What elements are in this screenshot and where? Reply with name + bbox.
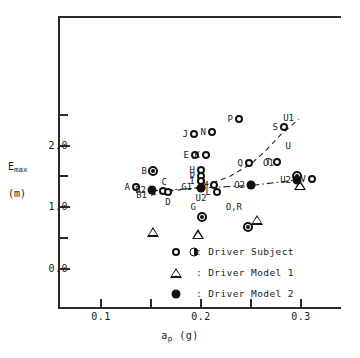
x-axis-unit: (g) xyxy=(179,330,199,341)
point-label: A xyxy=(125,182,130,192)
data-point: O,R xyxy=(0,20,360,30)
x-tick-label: 0.3 xyxy=(291,311,311,322)
data-point: B xyxy=(0,0,360,10)
point-label: O1 xyxy=(263,158,274,168)
x-axis-title-sub: p xyxy=(168,334,173,343)
point-label: D xyxy=(165,197,170,207)
point-label: J xyxy=(183,129,188,139)
y-tick-label: 1.0 xyxy=(48,201,68,212)
marker-open-circle xyxy=(172,248,180,256)
marker-open-circle xyxy=(245,159,253,167)
marker-open-circle xyxy=(273,158,281,166)
point-label: G1 xyxy=(181,182,192,192)
data-point: O1 xyxy=(0,60,360,70)
data-point: U xyxy=(0,30,360,40)
marker-triangle xyxy=(147,227,159,237)
data-point: U1 xyxy=(0,70,360,80)
point-label: E xyxy=(184,150,189,160)
y-axis-unit: (m) xyxy=(8,187,28,200)
point-label: U2 xyxy=(280,175,291,185)
legend: : Driver Subject: Driver Model 1: Driver… xyxy=(150,240,294,303)
marker-filled-circle xyxy=(293,175,302,184)
marker-triangle xyxy=(251,215,263,225)
y-axis-title-sub: max xyxy=(14,165,28,174)
y-tick xyxy=(60,175,68,177)
marker-filled-circle xyxy=(148,186,157,195)
marker-triangle xyxy=(170,268,182,278)
marker-half-circle xyxy=(190,247,199,256)
data-point: G1 xyxy=(0,50,360,60)
marker-bullseye xyxy=(197,212,207,222)
marker-open-circle xyxy=(280,123,288,131)
point-label: U2 xyxy=(196,193,207,203)
legend-row: : Driver Subject xyxy=(150,240,294,261)
marker-open-circle xyxy=(208,128,216,136)
data-point: B1 xyxy=(0,40,360,50)
point-label: Q xyxy=(238,158,243,168)
point-label: O,R xyxy=(226,202,242,212)
plot-top-border xyxy=(58,16,341,18)
y-tick xyxy=(60,114,68,116)
x-tick xyxy=(300,299,302,309)
point-label: K xyxy=(195,150,200,160)
marker-filled-circle xyxy=(172,289,181,298)
point-label: S xyxy=(273,122,278,132)
marker-open-circle xyxy=(308,175,316,183)
point-label: O2 xyxy=(234,180,245,190)
point-label: C xyxy=(162,177,167,187)
legend-symbols xyxy=(150,288,196,300)
marker-filled-circle xyxy=(197,183,206,192)
point-label: G xyxy=(191,202,196,212)
point-label: B xyxy=(142,166,147,176)
y-tick-label: 2.0 xyxy=(48,140,68,151)
legend-label: : Driver Model 2 xyxy=(196,283,294,304)
legend-symbols xyxy=(150,267,196,279)
legend-label: : Driver Model 1 xyxy=(196,262,294,283)
point-label: U1 xyxy=(283,113,294,123)
marker-triangle xyxy=(192,229,204,239)
point-label: B2 xyxy=(135,185,146,195)
y-tick xyxy=(60,237,68,239)
marker-open-circle xyxy=(164,188,172,196)
data-points-layer: ACDEKHPIMLJNPQTSVBGO,RUB1G1O1U1B2U2O2U2 xyxy=(0,0,360,80)
marker-bullseye xyxy=(148,166,158,176)
marker-open-circle xyxy=(202,151,210,159)
scatter-plot-figure: 0.01.02.0 0.10.20.3 Emax (m) ap (g) ACDE… xyxy=(0,0,360,358)
driver-model-2-curve xyxy=(151,180,297,191)
legend-symbols xyxy=(150,246,196,258)
legend-label: : Driver Subject xyxy=(196,241,294,262)
data-point: G xyxy=(0,10,360,20)
marker-open-circle xyxy=(213,188,221,196)
x-tick-label: 0.2 xyxy=(191,311,211,322)
y-tick-label: 0.0 xyxy=(48,263,68,274)
legend-row: : Driver Model 2 xyxy=(150,282,294,303)
x-tick xyxy=(100,299,102,309)
legend-row: : Driver Model 1 xyxy=(150,261,294,282)
marker-open-circle xyxy=(235,115,243,123)
x-axis-title: ap (g) xyxy=(0,330,360,343)
y-axis-title: Emax (m) xyxy=(8,160,28,200)
x-tick-label: 0.1 xyxy=(91,311,111,322)
point-label: P xyxy=(228,114,233,124)
point-label: U xyxy=(286,141,291,151)
point-label: N xyxy=(201,127,206,137)
marker-filled-circle xyxy=(247,181,256,190)
marker-open-circle xyxy=(190,130,198,138)
